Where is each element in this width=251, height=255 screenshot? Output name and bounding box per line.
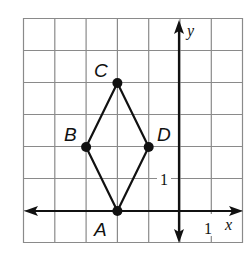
point-c [112, 78, 122, 88]
point-a [112, 206, 122, 216]
point-d [144, 142, 154, 152]
label-c: C [94, 60, 108, 81]
point-b [81, 142, 91, 152]
y-tick-1: 1 [160, 171, 168, 188]
x-tick-1: 1 [204, 220, 212, 237]
label-b: B [64, 124, 77, 145]
y-axis-label: y [185, 22, 195, 40]
coordinate-plane: C B D A y x 1 1 [0, 0, 251, 255]
label-d: D [157, 124, 171, 145]
grid [24, 18, 243, 243]
x-axis-label: x [224, 216, 232, 233]
label-a: A [93, 219, 107, 240]
